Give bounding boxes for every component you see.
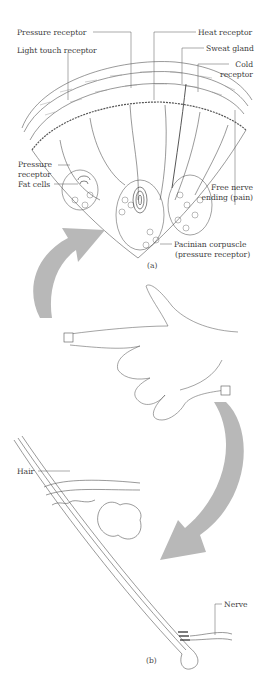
- caption-a: (a): [147, 261, 157, 270]
- magnify-box-fingertip: [64, 333, 73, 342]
- label-pacinian-corpuscle-line2: (pressure receptor): [175, 250, 250, 259]
- curved-arrow-down: [160, 402, 244, 560]
- label-heat-receptor: Heat receptor: [198, 28, 252, 37]
- curved-arrow-up: [33, 228, 105, 318]
- pointing-hand: [70, 285, 238, 420]
- magnify-box-palm: [221, 386, 230, 395]
- label-cold-receptor-line1: Cold: [230, 60, 253, 69]
- figure-artwork: [0, 0, 267, 688]
- skin-cross-section: [22, 62, 252, 258]
- label-cold-receptor-line2: receptor: [218, 70, 253, 79]
- caption-b: (b): [146, 656, 157, 665]
- label-free-nerve-line2: ending (pain): [190, 193, 253, 202]
- label-nerve: Nerve: [224, 600, 248, 609]
- label-pressure-receptor-side-line2: receptor: [18, 170, 51, 179]
- label-free-nerve-line1: Free nerve: [200, 183, 253, 192]
- label-light-touch-receptor: Light touch receptor: [17, 46, 97, 55]
- label-sweat-gland: Sweat gland: [206, 44, 254, 53]
- label-pressure-receptor-side-line1: Pressure: [18, 160, 52, 169]
- label-fat-cells: Fat cells: [18, 180, 50, 189]
- label-hair: Hair: [17, 467, 34, 476]
- label-pacinian-corpuscle-line1: Pacinian corpuscle: [174, 240, 246, 249]
- label-pressure-receptor: Pressure receptor: [17, 28, 86, 37]
